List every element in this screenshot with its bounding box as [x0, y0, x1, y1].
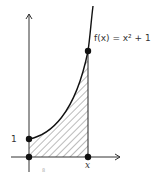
point-origin [26, 154, 32, 160]
x-label: x [85, 161, 90, 170]
y-intercept-label: 1 [11, 135, 17, 144]
function-label: f(x) = x² + 1 [94, 34, 151, 43]
shaded-area [29, 51, 88, 157]
footnote-mark: 8 [42, 168, 45, 173]
point-y-intercept [26, 136, 32, 142]
area-under-curve-diagram [0, 0, 161, 181]
point-fx [85, 48, 91, 54]
